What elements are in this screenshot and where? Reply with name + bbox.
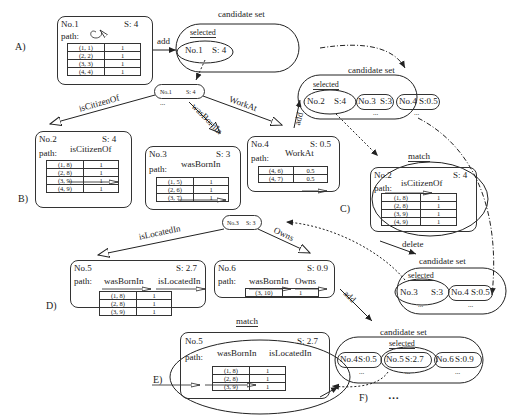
relation-label: isLocatedIn — [269, 349, 311, 358]
table-row: (3, 9)1 — [382, 210, 457, 218]
table-row: (4, 4)1 — [68, 68, 141, 76]
selected-label: selected — [389, 340, 415, 349]
node-card-no4: No.4 S: 0.5 path: WorkAt (4, 6)0.5 (4, 7… — [247, 136, 340, 192]
table-row: (4, 9)1 — [382, 218, 457, 226]
candidate-item-score: S:4 — [334, 97, 346, 106]
path-label: path: — [61, 32, 79, 41]
candidate-item-score: S:0.5 — [471, 288, 490, 297]
node-table: (1, 8)1 (2, 8)1 (3, 9)1 (4, 9)1 — [46, 160, 119, 193]
table-row: (2, 6)1 — [157, 186, 229, 194]
node-card-no5: No.5 S: 2.7 path: wasBornIn isLocatedIn … — [70, 260, 206, 308]
path-label: path: — [218, 277, 236, 286]
relation-label: WorkAt — [285, 149, 314, 158]
ellipsis: ... — [359, 369, 364, 376]
table-row: (4, 6)0.5 — [259, 167, 328, 175]
table-row: (1, 5)1 — [157, 178, 229, 186]
ellipsis: ... — [160, 100, 165, 107]
match-label: match — [408, 152, 430, 162]
candidate-item-id: No.4 — [451, 288, 469, 297]
node-id: No.5 — [74, 264, 92, 273]
table-row: (3, 10)1 — [246, 289, 319, 297]
node-score: S: 2.7 — [297, 337, 318, 346]
relation-label: Owns — [295, 277, 316, 286]
path-label: path: — [251, 154, 269, 163]
candidate-set-title: candidate set — [218, 10, 265, 19]
node-id: No.1 — [61, 20, 79, 29]
node-id: No.6 — [218, 264, 236, 273]
node-id: No.2 — [39, 135, 57, 144]
node-score: S: 4 — [124, 20, 138, 29]
path-label: path: — [149, 165, 167, 174]
path-label: path: — [74, 277, 92, 286]
node-score: S: 4 — [453, 171, 467, 180]
table-row: (1, 1)1 — [68, 44, 141, 52]
table-row: (2, 8)1 — [47, 169, 119, 177]
node-card-no1: No.1 S: 4 path: (1, 1)1 (2, 2)1 (3, 3)1 … — [57, 16, 153, 85]
table-row: (1, 8)1 — [47, 161, 119, 169]
relation-label: wasBornIn — [249, 277, 289, 286]
table-row: (3, 9)1 — [213, 383, 286, 391]
candidate-item-id: No.6 — [436, 355, 454, 364]
relation-label: isCitizenOf — [401, 179, 443, 188]
node-table: (1, 8)1 (2, 8)1 (3, 9)1 (4, 9)1 — [381, 193, 457, 226]
candidate-item-score: S:3 — [380, 97, 392, 106]
node-card-no2: No.2 S: 4 path: isCitizenOf (1, 8)1 (2, … — [35, 131, 132, 208]
candidate-item-score: S:3 — [431, 288, 443, 297]
candidate-item-id: No.2 — [307, 97, 325, 106]
node-id: No.5 — [185, 337, 203, 346]
ellipsis: ... — [455, 369, 460, 376]
node-score: S: 2.7 — [176, 264, 197, 273]
relation-label: wasBornIn — [217, 349, 257, 358]
node-card-no3: No.3 S: 3 path: wasBornIn (1, 5)1 (2, 6)… — [145, 146, 241, 210]
relation-label: wasBornIn — [181, 160, 221, 169]
ellipsis: ... — [414, 110, 419, 117]
candidate-item-score: S: 4 — [212, 46, 226, 55]
candidate-item-id: No.4 — [399, 97, 417, 106]
panel-label-f: F) — [359, 393, 368, 403]
panel-label-b: B) — [18, 194, 28, 204]
relation-label: isCitizenOf — [70, 145, 112, 154]
node-card-no2-match: No.2 S: 4 path: isCitizenOf (1, 8)1 (2, … — [370, 167, 477, 232]
continuation-ellipsis: … — [388, 390, 401, 401]
node-id: No.4 — [251, 140, 269, 149]
panel-label-d: D) — [46, 301, 57, 311]
candidate-set-title: candidate set — [348, 66, 395, 75]
node-score: S: 3 — [216, 150, 230, 159]
path-label: path: — [185, 353, 203, 362]
node-id: No.3 — [149, 150, 167, 159]
node-score: S: 4 — [186, 89, 196, 95]
node-card-no5-match: No.5 S: 2.7 path: wasBornIn isLocatedIn … — [180, 332, 330, 399]
ellipsis: ... — [468, 302, 473, 309]
table-row: (2, 8)1 — [382, 202, 457, 210]
table-row: (1, 8)1 — [100, 292, 172, 300]
candidate-item-score: S:0.5 — [419, 97, 438, 106]
node-table: (1, 5)1 (2, 6)1 (3, 7)1 — [156, 177, 229, 202]
relation-label: wasBornIn — [104, 277, 144, 286]
panel-label-c: C) — [340, 204, 350, 214]
candidate-item-id: No.5 — [386, 355, 404, 364]
node-score: S: 3 — [246, 220, 256, 226]
table-row: (4, 7)0.5 — [259, 175, 328, 183]
node-table: (1, 8)1 (2, 8)1 (3, 9)1 — [99, 291, 172, 316]
table-row: (4, 9)1 — [47, 185, 119, 193]
selected-label: selected — [408, 272, 434, 281]
parent-node-no3: No.3 S: 3 — [222, 215, 262, 230]
relation-label: isLocatedIn — [158, 277, 200, 286]
candidate-item-id: No.3 — [400, 288, 418, 297]
panel-label-a: A) — [15, 42, 26, 52]
selected-label: selected — [190, 29, 216, 38]
node-score: S: 0.9 — [307, 264, 328, 273]
node-card-no6: No.6 S: 0.9 path: wasBornIn Owns (3, 10)… — [214, 260, 335, 298]
table-row: (2, 8)1 — [100, 300, 172, 308]
table-row: (2, 2)1 — [68, 52, 141, 60]
path-label: path: — [39, 149, 57, 158]
node-score: S: 4 — [102, 135, 116, 144]
parent-node-no1: No.1 S: 4 — [154, 84, 205, 99]
selected-label: selected — [313, 81, 339, 90]
ellipsis: ... — [418, 302, 423, 309]
table-row: (3, 3)1 — [68, 60, 141, 68]
candidate-item-score: S:0.5 — [358, 355, 377, 364]
table-row: (3, 7)1 — [157, 194, 229, 202]
node-id: No.3 — [227, 220, 239, 226]
candidate-set-title: candidate set — [380, 328, 427, 337]
